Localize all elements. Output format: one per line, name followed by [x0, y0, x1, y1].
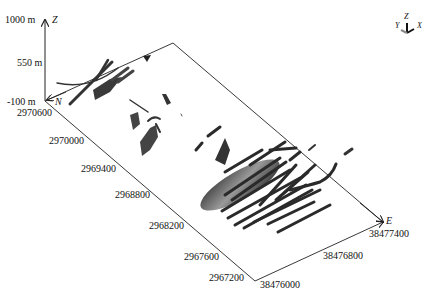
z-tick-1000: 1000 m [5, 15, 35, 25]
n-tick: 2967200 [209, 273, 244, 283]
n-tick: 2967600 [184, 252, 219, 262]
e-tick: 38476000 [260, 280, 300, 290]
e-axis-arrow [360, 203, 383, 222]
orient-y-label: Y [395, 22, 399, 30]
n-tick: 2970600 [17, 108, 52, 118]
e-tick: 38477400 [369, 229, 409, 239]
orientation-widget [401, 23, 414, 33]
e-axis-label: E [386, 216, 392, 226]
n-tick: 2970000 [49, 136, 84, 146]
n-tick: 2968800 [115, 190, 150, 200]
n-axis-label: N [55, 97, 62, 107]
e-tick: 38476800 [323, 251, 363, 261]
orient-z-label: Z [404, 13, 408, 21]
ore-bodies [57, 55, 352, 232]
3d-geological-model [0, 0, 438, 298]
z-tick-minus100: -100 m [7, 97, 36, 107]
orient-x-label: X [417, 22, 422, 30]
z-axis-label: Z [52, 15, 58, 25]
n-tick: 2968200 [149, 221, 184, 231]
n-tick: 2969400 [81, 164, 116, 174]
z-tick-550: 550 m [17, 58, 42, 68]
